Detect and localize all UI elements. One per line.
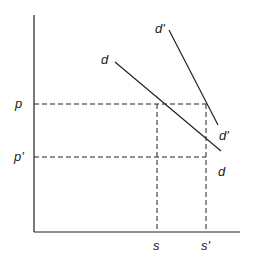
label-s-prime: s' [201, 238, 211, 253]
curve-d [115, 62, 221, 151]
label-d-prime-bottom: d' [219, 128, 229, 143]
label-d-bottom: d [218, 164, 226, 179]
label-p: p [14, 96, 22, 111]
label-d-top: d [101, 52, 109, 67]
label-s: s [153, 238, 160, 253]
label-d-prime-top: d' [155, 21, 165, 36]
label-p-prime: p' [13, 149, 24, 164]
diagram-canvas: p p' s s' d d d' d' [0, 0, 254, 263]
curve-d-prime [169, 30, 218, 125]
